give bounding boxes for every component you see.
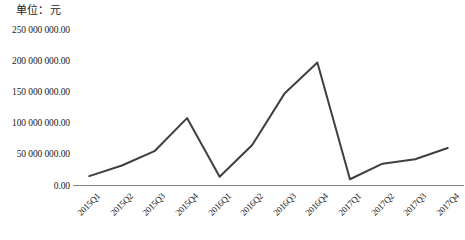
x-axis: 2015Q12015Q22015Q32015Q42016Q12016Q22016… — [0, 0, 465, 240]
chart-container: 单位：元 0.0050 000 000.00100 000 000.00150 … — [0, 0, 465, 240]
